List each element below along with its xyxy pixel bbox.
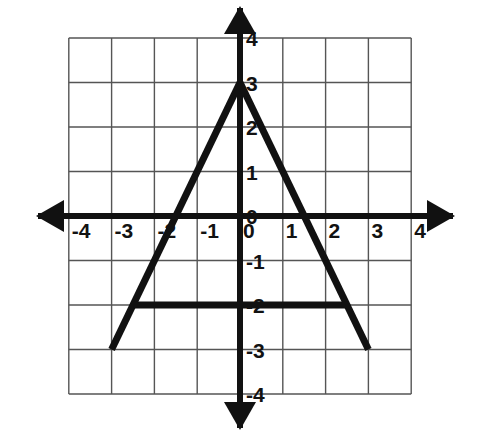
graph-canvas: -4-3-2-101234 43210-1-2-3-4 [0,0,480,439]
x-tick-label: -1 [200,219,219,242]
x-axis-right-arrow-icon [427,200,455,232]
y-axis-down-arrow-icon [224,402,256,430]
x-tick-label: 2 [329,219,341,242]
y-tick-label: -2 [246,294,265,317]
coordinate-graph-figure: -4-3-2-101234 43210-1-2-3-4 [0,0,480,439]
y-tick-label: -1 [246,250,265,273]
y-tick-label: 4 [246,27,258,50]
x-tick-label: -3 [115,219,134,242]
x-tick-label: -2 [157,219,176,242]
x-tick-label: -4 [72,219,91,242]
y-tick-label: 3 [246,72,258,95]
y-tick-label: 2 [246,116,258,139]
x-tick-label: 1 [286,219,298,242]
y-tick-label: 1 [246,161,258,184]
x-tick-label: 3 [371,219,383,242]
x-axis-left-arrow-icon [36,200,64,232]
x-tick-label: 4 [414,219,426,242]
y-tick-label: -3 [246,339,265,362]
y-tick-label: 0 [246,205,258,228]
y-tick-label: -4 [246,383,265,406]
